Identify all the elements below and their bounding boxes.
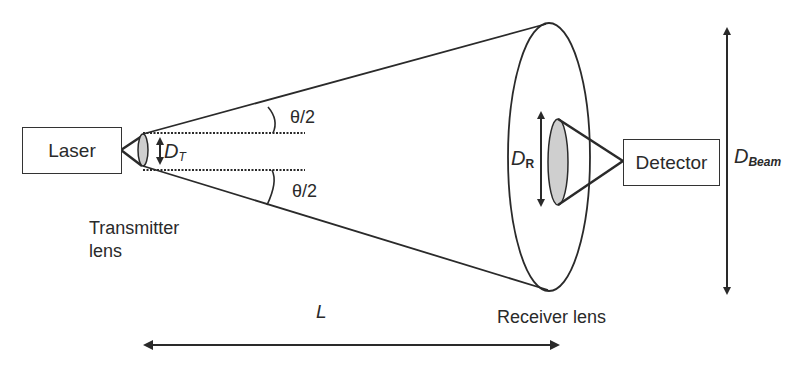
laser-label: Laser xyxy=(48,140,96,162)
beam-cone xyxy=(143,24,548,290)
theta-lower-label: θ/2 xyxy=(292,182,317,200)
length-symbol: L xyxy=(316,302,327,321)
dbeam-symbol: DBeam xyxy=(734,146,781,168)
receiver-lens-label: Receiver lens xyxy=(497,308,606,326)
angle-arc-lower xyxy=(267,170,274,205)
beam-divergence-diagram xyxy=(0,0,799,372)
detector-label: Detector xyxy=(636,152,708,174)
dr-symbol: DR xyxy=(511,148,534,170)
transmitter-lens-label: Transmitter lens xyxy=(89,217,179,263)
laser-box: Laser xyxy=(22,127,122,174)
detector-box: Detector xyxy=(623,139,720,186)
receiver-lens-shape xyxy=(548,119,568,205)
transmitter-lens-shape xyxy=(138,134,148,166)
angle-arc-upper xyxy=(268,107,275,133)
theta-upper-label: θ/2 xyxy=(290,108,315,126)
dt-symbol: DT xyxy=(164,141,186,163)
